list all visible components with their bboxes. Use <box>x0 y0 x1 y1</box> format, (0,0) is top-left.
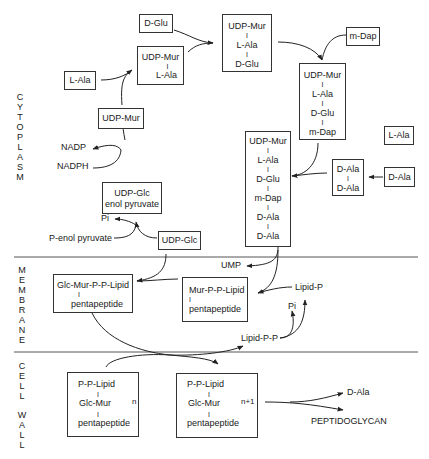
cw-n-glc-mur: Glc-Mur <box>79 398 111 409</box>
node-udp-mur-l-ala-d-glu: UDP-Mur I L-Ala I D-Glu <box>222 14 272 72</box>
node-d-ala: D-Ala <box>384 167 415 187</box>
node-udp-mur-pentapeptide: UDP-Mur I L-Ala I D-Glu I m-Dap I D-Ala … <box>245 131 291 247</box>
label-peptidoglycan: PEPTIDOGLYCAN <box>311 416 387 427</box>
node-udp-mur: UDP-Mur <box>98 108 144 129</box>
node-glc-mur-pp-lipid: Glc-Mur-P-P-Lipid I pentapeptide <box>53 274 133 313</box>
cw-n1-pentapeptide: pentapeptide <box>187 418 239 429</box>
region-label-cell: CELL <box>16 361 28 401</box>
label-p-enol-pyruvate: P-enol pyruvate <box>49 233 112 244</box>
cw-n1-top: P-P-Lipid <box>187 379 224 390</box>
node-d-ala-d-ala: D-Ala I D-Ala <box>332 159 364 196</box>
label-nadp: NADP <box>61 142 86 153</box>
label-pi-membrane: Pi <box>288 301 296 312</box>
node-udp-glc-enol-pyruvate: UDP-Glc enol pyruvate <box>102 182 162 214</box>
region-label-wall: WALL <box>16 410 28 450</box>
label-d-ala-out: D-Ala <box>347 387 370 398</box>
label-lipid-p: Lipid-P <box>295 282 323 293</box>
node-udp-mur-tetrapeptide: UDP-Mur I L-Ala I D-Glu I m-Dap <box>299 63 346 140</box>
node-m-dap: m-Dap <box>346 27 380 46</box>
node-udp-glc: UDP-Glc <box>158 231 201 250</box>
cw-n1-glc-mur: Glc-Mur <box>188 398 220 409</box>
node-udp-mur-l-ala: UDP-Mur I L-Ala <box>137 46 184 85</box>
node-mur-pp-lipid: Mur-P-P-Lipid I pentapeptide <box>182 277 248 322</box>
label-lipid-pp: Lipid-P-P <box>241 333 278 344</box>
cw-n-subscript: n <box>132 396 136 407</box>
region-label-membrane: MEMBRANE <box>16 265 28 345</box>
label-nadph: NADPH <box>57 161 89 172</box>
node-d-glu: D-Glu <box>139 14 173 33</box>
cw-n1-subscript: n+1 <box>241 396 255 407</box>
peptidoglycan-pathway-diagram: CYTOPLASM MEMBRANE CELL WALL D-Glu UDP-M… <box>0 0 429 459</box>
label-ump: UMP <box>221 260 241 271</box>
label-pi-cytoplasm: Pi <box>101 213 109 224</box>
node-l-ala-right: L-Ala <box>384 126 414 145</box>
node-l-ala-left: L-Ala <box>64 71 96 90</box>
region-label-cytoplasm: CYTOPLASM <box>14 92 26 182</box>
cw-n-pentapeptide: pentapeptide <box>78 418 130 429</box>
